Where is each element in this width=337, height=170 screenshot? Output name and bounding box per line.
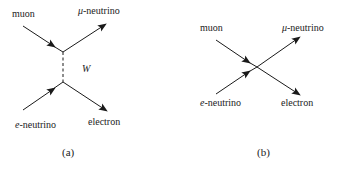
- electron-line-a: [63, 82, 104, 109]
- diagram-a: muon μ-neutrino W e-neutrino electron (a…: [12, 5, 120, 159]
- mu-neutrino-line-a: [63, 26, 103, 52]
- electron-label-b: electron: [281, 97, 313, 108]
- w-boson-label: W: [82, 63, 92, 74]
- caption-a: (a): [62, 146, 75, 159]
- e-neutrino-label-b: e-neutrino: [200, 97, 241, 108]
- mu-neutrino-label-b: μ-neutrino: [281, 22, 324, 33]
- caption-b: (b): [257, 146, 270, 159]
- muon-label-a: muon: [12, 8, 35, 19]
- e-neutrino-line-a: [23, 90, 52, 110]
- electron-line-b: [257, 67, 297, 93]
- mu-neutrino-label-a: μ-neutrino: [77, 5, 120, 16]
- e-neutrino-label-a: e-neutrino: [15, 119, 56, 130]
- muon-line-b: [216, 40, 247, 61]
- muon-line-a: [23, 26, 52, 45]
- mu-neutrino-line-b: [257, 39, 297, 67]
- feynman-diagrams: muon μ-neutrino W e-neutrino electron (a…: [0, 0, 337, 170]
- electron-label-a: electron: [88, 116, 120, 127]
- muon-label-b: muon: [200, 22, 223, 33]
- diagram-b: muon μ-neutrino e-neutrino electron (b): [200, 22, 324, 159]
- e-neutrino-line-b: [216, 73, 247, 94]
